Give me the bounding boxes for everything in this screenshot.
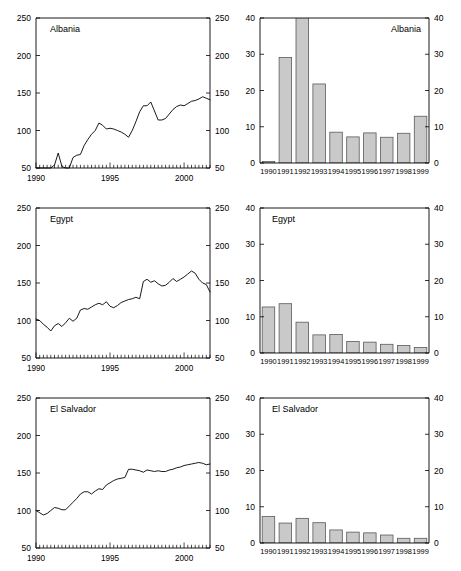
y-tick-label-left: 50 <box>22 353 32 363</box>
panel-egypt-bar: 0010102020303040401990199119921993199419… <box>231 190 461 380</box>
bar <box>364 133 377 163</box>
x-tick-label: 1995 <box>101 364 120 373</box>
x-category-label: 1997 <box>379 167 395 176</box>
x-category-label: 1990 <box>260 547 276 556</box>
x-category-label: 1992 <box>294 167 310 176</box>
panel-albania-bar: 0010102020303040401990199119921993199419… <box>231 0 461 190</box>
y-tick-label-left: 50 <box>22 543 32 553</box>
x-category-label: 1996 <box>362 357 378 366</box>
y-tick-label-left: 0 <box>250 348 255 358</box>
bar <box>330 530 343 543</box>
x-tick-label: 1995 <box>101 554 120 563</box>
bar <box>364 342 377 353</box>
bars-group <box>262 517 427 543</box>
y-tick-label-right: 250 <box>215 393 229 403</box>
x-category-label: 1998 <box>395 547 411 556</box>
panel-title: Egypt <box>272 214 296 224</box>
x-tick-label: 2000 <box>175 554 194 563</box>
x-category-label: 1994 <box>328 357 344 366</box>
panel-el-salvador-bar: 0010102020303040401990199119921993199419… <box>231 380 461 570</box>
panel-egypt-line: 5050100100150150200200250250199019952000… <box>0 190 231 380</box>
data-series-line <box>36 97 210 168</box>
data-series-line <box>36 271 210 331</box>
bar <box>397 133 410 163</box>
x-category-label: 1994 <box>328 167 344 176</box>
bar <box>364 533 377 543</box>
bar <box>414 348 427 353</box>
y-tick-label-left: 30 <box>246 49 256 59</box>
y-tick-label-right: 150 <box>215 468 229 478</box>
y-tick-label-right: 10 <box>434 312 444 322</box>
x-category-label: 1997 <box>379 357 395 366</box>
y-tick-label-left: 30 <box>246 239 256 249</box>
y-tick-label-right: 50 <box>215 353 225 363</box>
bar <box>347 532 360 543</box>
x-tick-label: 2000 <box>175 364 194 373</box>
y-tick-label-right: 50 <box>215 163 225 173</box>
y-tick-label-left: 250 <box>17 203 31 213</box>
bar <box>330 132 343 163</box>
bar <box>313 523 326 543</box>
egypt-line: 5050100100150150200200250250199019952000… <box>0 190 231 380</box>
x-category-label: 1998 <box>395 357 411 366</box>
y-tick-label-right: 200 <box>215 241 229 251</box>
y-tick-label-right: 100 <box>215 506 229 516</box>
chart-row-egypt: 5050100100150150200200250250199019952000… <box>0 190 461 380</box>
x-category-label: 1999 <box>412 167 428 176</box>
y-tick-label-right: 30 <box>434 239 444 249</box>
plot-frame <box>36 18 210 168</box>
y-tick-label-left: 150 <box>17 88 31 98</box>
panel-albania-line: 5050100100150150200200250250199019952000… <box>0 0 231 190</box>
y-tick-label-left: 10 <box>246 122 256 132</box>
bar <box>330 335 343 353</box>
plot-frame <box>36 398 210 548</box>
data-series-line <box>36 463 210 516</box>
y-tick-label-right: 200 <box>215 51 229 61</box>
bar <box>381 344 394 353</box>
y-tick-label-right: 20 <box>434 86 444 96</box>
el-salvador-line: 5050100100150150200200250250199019952000… <box>0 380 231 570</box>
x-tick-label: 1990 <box>27 364 46 373</box>
bar <box>279 304 292 353</box>
x-category-label: 1992 <box>294 547 310 556</box>
y-tick-label-right: 0 <box>434 348 439 358</box>
y-tick-label-right: 250 <box>215 13 229 23</box>
chart-row-albania: 5050100100150150200200250250199019952000… <box>0 0 461 190</box>
y-tick-label-left: 200 <box>17 51 31 61</box>
bar <box>313 84 326 163</box>
y-tick-label-right: 30 <box>434 49 444 59</box>
bar <box>397 345 410 353</box>
y-tick-label-left: 100 <box>17 316 31 326</box>
x-category-label: 1999 <box>412 357 428 366</box>
bar <box>414 538 427 543</box>
el-salvador-bar: 0010102020303040401990199119921993199419… <box>231 380 461 570</box>
bar <box>296 518 309 543</box>
albania-line: 5050100100150150200200250250199019952000… <box>0 0 231 190</box>
panel-title: Albania <box>391 24 421 34</box>
x-category-label: 1996 <box>362 547 378 556</box>
y-tick-label-right: 250 <box>215 203 229 213</box>
y-tick-label-left: 100 <box>17 126 31 136</box>
bar <box>414 116 427 163</box>
x-tick-label: 1995 <box>101 174 120 183</box>
bars-group <box>262 304 427 353</box>
x-category-label: 1993 <box>311 547 327 556</box>
y-tick-label-left: 20 <box>246 276 256 286</box>
y-tick-label-right: 150 <box>215 88 229 98</box>
bar <box>262 307 275 353</box>
y-tick-label-left: 100 <box>17 506 31 516</box>
y-tick-label-left: 10 <box>246 502 256 512</box>
x-category-label: 1995 <box>345 167 361 176</box>
x-category-label: 1995 <box>345 547 361 556</box>
y-tick-label-left: 250 <box>17 393 31 403</box>
y-tick-label-left: 200 <box>17 241 31 251</box>
y-tick-label-right: 200 <box>215 431 229 441</box>
y-tick-label-right: 10 <box>434 122 444 132</box>
x-category-label: 1990 <box>260 357 276 366</box>
bar <box>296 0 309 163</box>
y-tick-label-right: 40 <box>434 13 444 23</box>
y-tick-label-right: 0 <box>434 538 439 548</box>
x-tick-label: 2000 <box>175 174 194 183</box>
bar <box>397 538 410 543</box>
bar <box>296 322 309 353</box>
